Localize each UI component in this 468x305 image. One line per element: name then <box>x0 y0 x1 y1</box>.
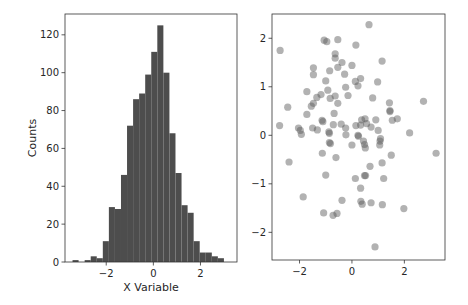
y-tick-label: 100 <box>40 67 59 78</box>
scatter-panel: −202 −2−1012 <box>251 14 445 277</box>
histogram-bar <box>218 258 224 262</box>
histogram-bar <box>194 241 200 262</box>
histogram-bar <box>157 25 163 262</box>
scatter-point <box>298 131 305 138</box>
scatter-point <box>379 201 386 208</box>
scatter-y-ticks: −2−1012 <box>251 33 272 238</box>
scatter-point <box>334 64 341 71</box>
scatter-point <box>331 110 338 117</box>
x-tick-label: −2 <box>99 268 114 279</box>
scatter-point <box>359 201 366 208</box>
scatter-point <box>362 172 369 179</box>
scatter-point <box>320 209 327 216</box>
scatter-point <box>327 140 334 147</box>
y-tick-label: 0 <box>260 130 266 141</box>
scatter-point <box>334 36 341 43</box>
y-tick-label: −1 <box>251 178 266 189</box>
scatter-point <box>303 111 310 118</box>
figure: −202 020406080100120 X Variable Counts −… <box>0 0 468 305</box>
scatter-point <box>432 150 439 157</box>
scatter-point <box>365 21 372 28</box>
histogram-bar <box>206 253 212 262</box>
y-tick-label: 60 <box>46 143 59 154</box>
scatter-point <box>406 129 413 136</box>
scatter-point <box>371 243 378 250</box>
scatter-point <box>319 150 326 157</box>
scatter-point <box>354 82 361 89</box>
x-tick-label: 2 <box>197 268 203 279</box>
scatter-point <box>420 98 427 105</box>
histogram-y-label: Counts <box>26 119 39 158</box>
scatter-point <box>334 100 341 107</box>
x-tick-label: 2 <box>401 266 407 277</box>
histogram-bar <box>212 256 218 262</box>
scatter-point <box>308 103 315 110</box>
scatter-point <box>310 71 317 78</box>
scatter-point <box>332 154 339 161</box>
scatter-point <box>330 121 337 128</box>
scatter-point <box>341 71 348 78</box>
y-tick-label: 40 <box>46 181 59 192</box>
scatter-point <box>332 92 339 99</box>
scatter-point <box>380 175 387 182</box>
y-tick-label: −2 <box>251 227 266 238</box>
scatter-point <box>352 41 359 48</box>
histogram-bar <box>182 205 188 262</box>
scatter-point <box>376 141 383 148</box>
scatter-point <box>374 78 381 85</box>
scatter-point <box>344 92 351 99</box>
histogram-bar <box>127 126 133 262</box>
x-tick-label: 0 <box>150 268 156 279</box>
histogram-bar <box>200 253 206 262</box>
scatter-point <box>400 205 407 212</box>
histogram-panel: −202 020406080100120 X Variable Counts <box>26 14 237 294</box>
scatter-point <box>310 64 317 71</box>
scatter-point <box>378 159 385 166</box>
scatter-point <box>394 115 401 122</box>
scatter-point <box>366 163 373 170</box>
histogram-x-label: X Variable <box>123 281 179 294</box>
scatter-point <box>300 193 307 200</box>
y-tick-label: 0 <box>53 257 59 268</box>
histogram-bar <box>115 209 121 262</box>
scatter-point <box>386 108 393 115</box>
histogram-bars <box>73 25 224 262</box>
scatter-point <box>323 38 330 45</box>
scatter-point <box>319 118 326 125</box>
histogram-bar <box>175 173 181 262</box>
scatter-point <box>342 84 349 91</box>
scatter-x-ticks: −202 <box>292 260 407 277</box>
scatter-point <box>332 55 339 62</box>
scatter-point <box>276 122 283 129</box>
scatter-point <box>342 131 349 138</box>
scatter-point <box>352 175 359 182</box>
histogram-y-ticks: 020406080100120 <box>40 29 65 267</box>
histogram-bar <box>133 99 139 262</box>
scatter-point <box>375 127 382 134</box>
scatter-point <box>357 185 364 192</box>
scatter-point <box>284 104 291 111</box>
scatter-point <box>348 62 355 69</box>
histogram-bar <box>145 75 151 262</box>
histogram-bar <box>139 94 145 262</box>
scatter-point <box>348 141 355 148</box>
scatter-point <box>329 212 336 219</box>
histogram-bar <box>109 207 115 262</box>
scatter-point <box>338 197 345 204</box>
scatter-point <box>362 144 369 151</box>
scatter-points <box>276 21 440 250</box>
scatter-point <box>367 199 374 206</box>
x-tick-label: 0 <box>349 266 355 277</box>
scatter-point <box>386 99 393 106</box>
scatter-point <box>372 116 379 123</box>
scatter-point <box>277 47 284 54</box>
x-tick-label: −2 <box>292 266 307 277</box>
scatter-point <box>285 158 292 165</box>
scatter-point <box>367 123 374 130</box>
scatter-point <box>388 152 395 159</box>
scatter-point <box>322 171 329 178</box>
y-tick-label: 80 <box>46 105 59 116</box>
figure-canvas: −202 020406080100120 X Variable Counts −… <box>0 0 468 305</box>
histogram-bar <box>188 213 194 262</box>
scatter-point <box>369 94 376 101</box>
